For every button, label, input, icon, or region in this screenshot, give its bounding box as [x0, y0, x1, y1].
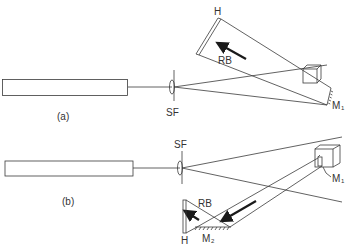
sf-label-b: SF — [174, 139, 187, 150]
laser-b — [5, 161, 133, 176]
ray-lower-b — [182, 168, 342, 202]
h-label-b: H — [181, 235, 188, 246]
m2-sub-b: 2 — [211, 238, 215, 244]
hologram-b — [183, 200, 186, 233]
panel-b: SF M 1 — [5, 137, 345, 246]
m1-leader-b — [323, 167, 331, 177]
caption-a: (a) — [57, 111, 69, 122]
mirror-m1-b — [318, 155, 322, 166]
ref-beam-lower-b — [230, 166, 322, 227]
rb-arrow-b — [225, 201, 256, 219]
m1-sub-a: 1 — [341, 105, 345, 111]
panel-a: SF M 1 H RB — [3, 6, 346, 122]
rb-arrow-small-b — [188, 213, 199, 220]
h-label-a: H — [214, 6, 221, 17]
hologram-a — [196, 18, 221, 55]
laser-a — [3, 80, 128, 96]
m1-label-a: M — [332, 100, 340, 111]
ref-beam-upper-b — [197, 158, 318, 227]
m2-label-b: M — [202, 233, 210, 244]
spatial-filter-a — [170, 70, 175, 101]
m1-label-b: M — [332, 173, 340, 184]
diagram-canvas: SF M 1 H RB — [0, 0, 347, 246]
mirror-m2-b — [195, 227, 231, 230]
rb-label-a: RB — [218, 55, 232, 66]
caption-b: (b) — [62, 196, 74, 207]
m1-sub-b: 1 — [341, 178, 345, 184]
sf-label-a: SF — [166, 107, 179, 118]
rb-label-b: RB — [198, 198, 212, 209]
spatial-filter-b — [178, 151, 183, 184]
